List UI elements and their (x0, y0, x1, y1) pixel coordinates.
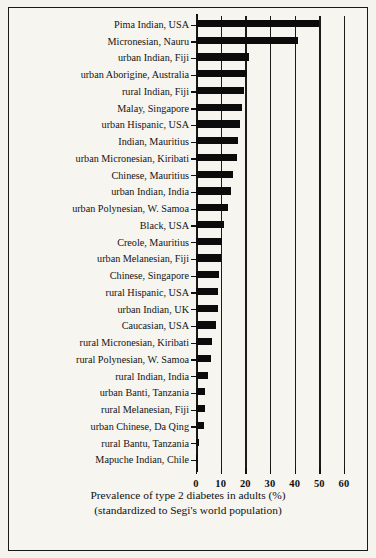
bar (196, 204, 228, 211)
category-label-row: rural Polynesian, W. Samoa (4, 351, 196, 369)
bar-row (196, 435, 344, 453)
bar (196, 439, 199, 446)
category-label: urban Indian, UK (12, 301, 196, 319)
bar (196, 338, 212, 345)
bar-row (196, 83, 344, 101)
bar-row (196, 351, 344, 369)
bar (196, 154, 237, 161)
gridline-60 (344, 16, 345, 468)
category-label: urban Indian, Fiji (12, 49, 196, 67)
bar-row (196, 66, 344, 84)
bar-row (196, 334, 344, 352)
category-label-row: urban Chinese, Da Qing (4, 418, 196, 436)
bar (196, 254, 221, 261)
category-label: rural Hispanic, USA (12, 284, 196, 302)
figure: Pima Indian, USAMicronesian, Nauruurban … (0, 0, 376, 558)
bar-row (196, 16, 344, 34)
category-label: urban Chinese, Da Qing (12, 418, 196, 436)
category-label: Caucasian, USA (12, 317, 196, 335)
category-label-row: urban Indian, India (4, 183, 196, 201)
bar (196, 171, 233, 178)
x-axis-title-line2: (standardized to Segi's world population… (8, 503, 368, 518)
bar (196, 187, 231, 194)
bar (196, 104, 242, 111)
bar-row (196, 133, 344, 151)
plot-area: 0102030405060 (196, 16, 344, 468)
category-label: urban Hispanic, USA (12, 116, 196, 134)
category-label-row: Pima Indian, USA (4, 16, 196, 34)
bar (196, 405, 205, 412)
bar-row (196, 284, 344, 302)
category-label: rural Bantu, Tanzania (12, 435, 196, 453)
category-label-row: Creole, Mauritius (4, 234, 196, 252)
category-label: Micronesian, Nauru (12, 33, 196, 51)
category-label: Mapuche Indian, Chile (12, 451, 196, 469)
bar-row (196, 49, 344, 67)
category-label-row: urban Hispanic, USA (4, 116, 196, 134)
bar-row (196, 183, 344, 201)
category-label: Malay, Singapore (12, 100, 196, 118)
category-label-row: urban Melanesian, Fiji (4, 250, 196, 268)
category-label-row: urban Indian, Fiji (4, 49, 196, 67)
x-axis-title-line1: Prevalence of type 2 diabetes in adults … (8, 488, 368, 503)
bar (196, 20, 319, 27)
category-label: Pima Indian, USA (12, 16, 196, 34)
category-label-row: Malay, Singapore (4, 100, 196, 118)
category-label-row: rural Micronesian, Kiribati (4, 334, 196, 352)
bar (196, 455, 198, 462)
bar (196, 372, 208, 379)
bar (196, 238, 222, 245)
category-label: Indian, Mauritius (12, 133, 196, 151)
bar (196, 87, 244, 94)
category-label: rural Melanesian, Fiji (12, 401, 196, 419)
category-label-row: Black, USA (4, 217, 196, 235)
category-label: urban Micronesian, Kiribati (12, 150, 196, 168)
category-label: rural Indian, India (12, 368, 196, 386)
bar (196, 321, 216, 328)
category-label-row: urban Micronesian, Kiribati (4, 150, 196, 168)
bar (196, 70, 247, 77)
bar-row (196, 368, 344, 386)
category-label: urban Melanesian, Fiji (12, 250, 196, 268)
bar (196, 355, 211, 362)
bar-row (196, 418, 344, 436)
category-label-row: Indian, Mauritius (4, 133, 196, 151)
category-label-row: rural Indian, Fiji (4, 83, 196, 101)
bar-row (196, 267, 344, 285)
category-label-row: urban Banti, Tanzania (4, 384, 196, 402)
category-label: Black, USA (12, 217, 196, 235)
category-label: rural Indian, Fiji (12, 83, 196, 101)
category-label: urban Indian, India (12, 183, 196, 201)
bar-row (196, 116, 344, 134)
bar-row (196, 301, 344, 319)
bar (196, 37, 298, 44)
bar (196, 137, 238, 144)
category-label: urban Banti, Tanzania (12, 384, 196, 402)
category-label: urban Polynesian, W. Samoa (12, 200, 196, 218)
bar-row (196, 150, 344, 168)
category-axis: Pima Indian, USAMicronesian, Nauruurban … (4, 16, 196, 468)
category-label-row: Chinese, Mauritius (4, 167, 196, 185)
category-label-row: Caucasian, USA (4, 317, 196, 335)
bar (196, 388, 205, 395)
category-label-row: Mapuche Indian, Chile (4, 451, 196, 469)
category-label: rural Micronesian, Kiribati (12, 334, 196, 352)
bar-row (196, 200, 344, 218)
category-label-row: Micronesian, Nauru (4, 33, 196, 51)
category-label-row: rural Bantu, Tanzania (4, 435, 196, 453)
bar-row (196, 100, 344, 118)
bar-row (196, 451, 344, 469)
bar (196, 221, 224, 228)
bar-row (196, 401, 344, 419)
category-label-row: Chinese, Singapore (4, 267, 196, 285)
x-tick-60 (344, 468, 345, 474)
category-label: Creole, Mauritius (12, 234, 196, 252)
bar-row (196, 167, 344, 185)
category-label: urban Aborigine, Australia (12, 66, 196, 84)
bar-row (196, 250, 344, 268)
category-label-row: rural Hispanic, USA (4, 284, 196, 302)
bar-row (196, 234, 344, 252)
bar (196, 288, 218, 295)
bar-row (196, 384, 344, 402)
bar (196, 271, 219, 278)
